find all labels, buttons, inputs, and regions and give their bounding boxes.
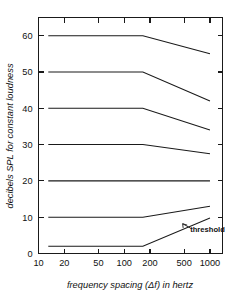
x-tick-label: 10 (33, 258, 43, 268)
curve-50-db (48, 72, 210, 101)
curve-30-db (48, 145, 210, 154)
curve-40-db (48, 108, 210, 130)
chart-annotations: threshold (183, 224, 225, 234)
y-tick-label: 40 (22, 104, 32, 114)
x-tick-label: 20 (59, 258, 69, 268)
x-tick-label: 500 (176, 258, 191, 268)
x-tick-label: 100 (117, 258, 132, 268)
y-axis-title: decibels SPL for constant loudness (5, 63, 15, 208)
y-tick-label: 60 (22, 31, 32, 41)
plot-frame (39, 18, 223, 254)
x-axis-ticks (39, 18, 210, 254)
y-tick-label: 30 (22, 140, 32, 150)
curve-60-db (48, 36, 210, 54)
y-tick-label: 20 (22, 176, 32, 186)
y-tick-label: 0 (27, 249, 32, 259)
loudness-contour-chart: 0102030405060 1020501002005001000 thresh… (0, 0, 238, 297)
x-axis-tick-labels: 1020501002005001000 (33, 258, 220, 268)
x-tick-label: 200 (142, 258, 157, 268)
chart-page: 0102030405060 1020501002005001000 thresh… (0, 0, 238, 297)
x-tick-label: 50 (93, 258, 103, 268)
x-axis-title: frequency spacing (Δf) in hertz (67, 280, 193, 290)
y-tick-label: 10 (22, 213, 32, 223)
threshold-annotation-label: threshold (190, 225, 225, 234)
curve-10-db (48, 206, 210, 217)
y-tick-label: 50 (22, 67, 32, 77)
data-curves (48, 36, 210, 247)
x-tick-label: 1000 (200, 258, 220, 268)
y-axis-tick-labels: 0102030405060 (22, 31, 32, 259)
curve-threshold (48, 218, 210, 246)
